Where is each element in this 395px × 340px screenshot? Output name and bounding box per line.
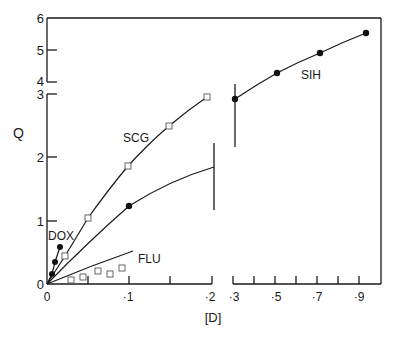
y-axis-label: Q: [13, 125, 24, 141]
scg-point: [125, 163, 131, 169]
x-tick-0.7: ·7: [312, 290, 323, 304]
flu-label: FLU: [138, 252, 161, 266]
x-tick-0: 0: [44, 290, 51, 304]
dox-point: [49, 271, 55, 277]
y-tick-labels: 6 5 4 3 2 1 0: [37, 11, 44, 292]
y-tick-2: 2: [37, 150, 44, 165]
chart: 6 5 4 3 2 1 0 Q 0 ·1 ·2 ·3 ·5 ·7 ·9 [D]: [0, 0, 395, 340]
scg-curve: [47, 97, 207, 284]
x-tick-0.9: ·9: [354, 290, 365, 304]
sih-point: [232, 96, 238, 102]
y-tick-5: 5: [37, 43, 44, 58]
scg-point: [85, 215, 91, 221]
flu-point: [119, 265, 125, 271]
sih-point: [126, 203, 132, 209]
dox-point: [57, 244, 63, 250]
x-tick-0.3: ·3: [229, 290, 240, 304]
y-tick-3: 3: [37, 87, 44, 102]
flu-point: [68, 277, 74, 283]
scg-point: [166, 123, 172, 129]
x-tick-labels: 0 ·1 ·2 ·3 ·5 ·7 ·9: [44, 290, 365, 304]
dox-curve: [47, 247, 60, 284]
scg-label: SCG: [123, 131, 149, 145]
x-axis-label: [D]: [205, 310, 222, 325]
sih-point: [363, 30, 369, 36]
flu-point: [107, 271, 113, 277]
sih-low-curve: [47, 167, 214, 284]
dox-point: [52, 259, 58, 265]
scg-point: [204, 94, 210, 100]
axis-break-lines: [214, 84, 235, 210]
x-tick-0.2: ·2: [205, 290, 216, 304]
sih-label: SIH: [301, 68, 321, 82]
y-tick-1: 1: [37, 214, 44, 229]
series-labels: DOX SCG FLU SIH: [48, 68, 321, 266]
open-markers: [62, 94, 210, 283]
flu-point: [95, 268, 101, 274]
sih-point: [317, 50, 323, 56]
y-tick-6: 6: [37, 11, 44, 26]
filled-markers: [49, 30, 369, 277]
dox-label: DOX: [48, 229, 74, 243]
sih-point: [274, 70, 280, 76]
x-tick-0.1: ·1: [123, 290, 134, 304]
sih-high-curve: [235, 33, 366, 99]
scg-point: [62, 253, 68, 259]
flu-point: [80, 274, 86, 280]
x-tick-0.5: ·5: [271, 290, 282, 304]
